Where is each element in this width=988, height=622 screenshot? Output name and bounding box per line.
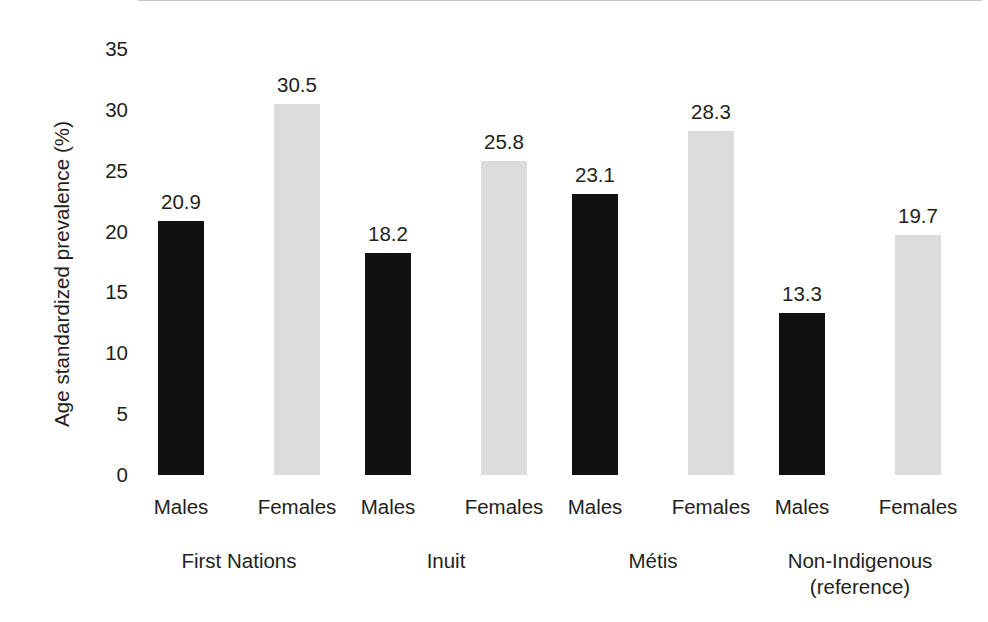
bar-value-label: 28.3: [666, 102, 756, 123]
x-axis-baseline: [138, 0, 982, 1]
bar-male: [572, 194, 618, 475]
y-tick-label: 20: [82, 222, 128, 243]
bar-value-label: 23.1: [550, 165, 640, 186]
group-label-line1: First Nations: [124, 548, 354, 574]
plot-area: 20.930.518.225.823.128.313.319.7MalesFem…: [138, 0, 982, 622]
y-tick-label: 5: [82, 404, 128, 425]
bar-female: [895, 235, 941, 475]
y-tick-label: 30: [82, 100, 128, 121]
y-axis-tick-labels: 35302520151050: [82, 0, 128, 622]
x-axis-sex-label: Females: [858, 497, 978, 518]
group-label-line1: Inuit: [331, 548, 561, 574]
bar-female: [481, 161, 527, 475]
bar-value-label: 25.8: [459, 132, 549, 153]
bar-value-label: 30.5: [252, 75, 342, 96]
bar-value-label: 19.7: [873, 206, 963, 227]
bar-value-label: 20.9: [136, 192, 226, 213]
bar-female: [688, 131, 734, 475]
x-axis-sex-label: Males: [328, 497, 448, 518]
bar-male: [158, 221, 204, 475]
x-axis-group-label: First Nations: [124, 548, 354, 574]
y-axis-title: Age standardized prevalence (%): [50, 44, 74, 504]
y-tick-label: 25: [82, 161, 128, 182]
x-axis-sex-label: Males: [121, 497, 241, 518]
x-axis-group-label: Inuit: [331, 548, 561, 574]
x-axis-group-label: Métis: [538, 548, 768, 574]
bar-male: [779, 313, 825, 475]
bar-chart-figure: Age standardized prevalence (%) 35302520…: [0, 0, 988, 622]
y-tick-label: 0: [82, 465, 128, 486]
group-label-line1: Non-Indigenous: [745, 548, 975, 574]
x-axis-group-label: Non-Indigenous(reference): [745, 548, 975, 600]
x-axis-sex-label: Males: [535, 497, 655, 518]
group-label-line2: (reference): [745, 574, 975, 600]
x-axis-sex-label: Males: [742, 497, 862, 518]
bar-value-label: 13.3: [757, 284, 847, 305]
y-tick-label: 10: [82, 343, 128, 364]
y-tick-label: 15: [82, 282, 128, 303]
bar-female: [274, 104, 320, 475]
y-tick-label: 35: [82, 39, 128, 60]
bar-value-label: 18.2: [343, 224, 433, 245]
bar-male: [365, 253, 411, 475]
group-label-line1: Métis: [538, 548, 768, 574]
